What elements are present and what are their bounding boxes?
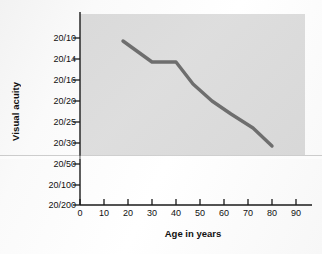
y-tick-label: 20/14 [53,54,76,64]
x-tick-label: 80 [259,208,285,218]
x-tick-label: 60 [211,208,237,218]
x-tick-label: 0 [67,208,93,218]
x-tick-label: 30 [139,208,165,218]
y-tick-label: 20/10 [53,33,76,43]
x-tick-label: 40 [163,208,189,218]
scan-artifact-highlight [0,156,322,159]
chart-screenshot: 20/10 20/14 20/16 20/20 20/25 20/30 20/5… [0,0,322,254]
y-tick-label: 20/25 [53,117,76,127]
y-tick-label: 20/50 [53,159,76,169]
y-tick-label: 20/30 [53,138,76,148]
x-tick-label: 50 [187,208,213,218]
x-tick-label: 70 [235,208,261,218]
x-tick-label: 90 [283,208,309,218]
y-tick-label: 20/16 [53,75,76,85]
y-tick-label: 20/100 [48,180,76,190]
y-axis-title: Visual acuity [8,56,24,166]
x-tick-label: 10 [91,208,117,218]
y-tick-label: 20/20 [53,96,76,106]
x-axis-ticks [80,199,296,205]
x-tick-label: 20 [115,208,141,218]
data-series-visual-acuity [123,41,272,146]
x-axis-title: Age in years [80,228,306,239]
